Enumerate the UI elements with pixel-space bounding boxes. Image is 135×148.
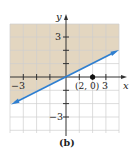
x-axis-arrow-icon	[121, 75, 127, 79]
y-tick-label-3: 3	[55, 31, 61, 42]
inequality-graph: y x 3 −3 −3 3 (2, 0) (b)	[0, 0, 135, 148]
x-tick-label-neg3: −3	[11, 80, 25, 91]
point-2-0	[90, 74, 95, 79]
y-tick-label-neg3: −3	[49, 111, 63, 122]
x-axis-label: x	[123, 80, 129, 91]
x-tick-label-3: 3	[102, 80, 108, 91]
figure-caption: (b)	[59, 137, 75, 148]
y-axis-label: y	[55, 11, 62, 22]
point-label: (2, 0)	[75, 81, 99, 91]
y-axis-arrow-icon	[64, 14, 68, 20]
